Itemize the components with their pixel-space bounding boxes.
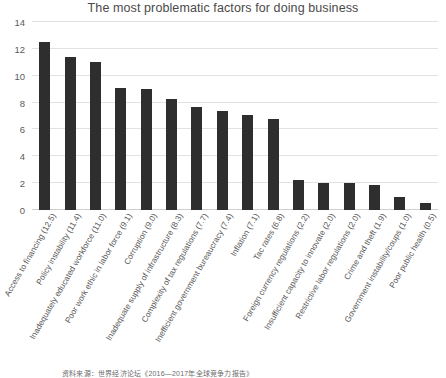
bar <box>217 111 228 210</box>
y-axis-tick-label: 2 <box>20 178 25 189</box>
y-axis-tick-label: 0 <box>20 205 25 216</box>
bar <box>344 183 355 210</box>
plot-area <box>32 22 438 210</box>
y-axis: 02468101214 <box>0 22 28 210</box>
bar <box>369 185 380 211</box>
y-axis-tick-label: 4 <box>20 151 25 162</box>
bar <box>166 99 177 210</box>
x-axis-tick-label: Poor public health (0.5) <box>388 212 439 290</box>
bar <box>268 119 279 210</box>
bar <box>115 88 126 210</box>
bar <box>394 197 405 210</box>
bar <box>90 62 101 210</box>
bar <box>39 42 50 210</box>
bar <box>141 89 152 210</box>
y-axis-tick-label: 14 <box>14 17 25 28</box>
y-axis-tick-label: 8 <box>20 97 25 108</box>
y-axis-tick-label: 12 <box>14 43 25 54</box>
bar <box>318 183 329 210</box>
y-axis-tick-label: 6 <box>20 124 25 135</box>
chart-title: The most problematic factors for doing b… <box>0 1 446 15</box>
x-axis: Access to financing (12.5)Policy instabi… <box>32 212 446 362</box>
y-axis-tick-label: 10 <box>14 70 25 81</box>
bar-series <box>32 22 438 210</box>
bar <box>191 107 202 210</box>
source-note: 资料来源：世界经济论坛《2016—2017年全球竞争力报告》 <box>62 368 253 378</box>
bar <box>293 180 304 210</box>
bar <box>242 115 253 210</box>
bar <box>65 57 76 210</box>
bar <box>420 203 431 210</box>
